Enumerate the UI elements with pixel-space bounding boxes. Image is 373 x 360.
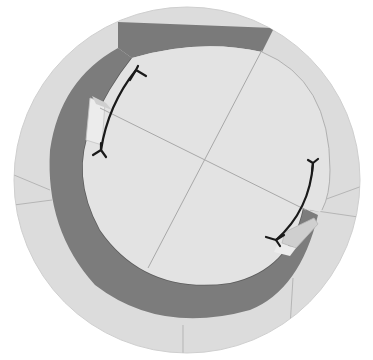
diagram-canvas (0, 0, 373, 360)
ring-diagram (0, 0, 373, 360)
